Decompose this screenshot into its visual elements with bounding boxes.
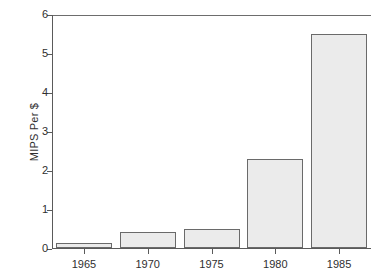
bar xyxy=(311,34,367,249)
bar xyxy=(184,229,240,248)
x-tick-label: 1970 xyxy=(135,258,159,271)
bar xyxy=(120,232,176,248)
x-tick-label: 1985 xyxy=(327,258,351,271)
x-tick-mark xyxy=(339,249,340,254)
x-tick-mark xyxy=(212,249,213,254)
y-tick-label: 3 xyxy=(42,125,48,138)
y-tick-label: 4 xyxy=(42,86,48,99)
x-tick-mark xyxy=(148,249,149,254)
bar-chart: MIPS Per $ 0123456 19651970197519801985 xyxy=(0,0,384,279)
y-axis-line xyxy=(52,15,53,249)
bar xyxy=(56,243,112,248)
y-tick-label: 6 xyxy=(42,8,48,21)
x-tick-mark xyxy=(275,249,276,254)
y-tick-label: 2 xyxy=(42,164,48,177)
bar xyxy=(247,159,303,248)
x-tick-mark xyxy=(84,249,85,254)
y-axis-title: MIPS Per $ xyxy=(26,15,42,249)
x-tick-label: 1975 xyxy=(199,258,223,271)
y-tick-label: 1 xyxy=(42,203,48,216)
plot-area: 0123456 19651970197519801985 xyxy=(52,15,371,249)
x-tick-label: 1965 xyxy=(72,258,96,271)
x-tick-label: 1980 xyxy=(263,258,287,271)
y-tick-label: 0 xyxy=(42,242,48,255)
plot-frame-top xyxy=(52,15,371,16)
y-tick-label: 5 xyxy=(42,47,48,60)
